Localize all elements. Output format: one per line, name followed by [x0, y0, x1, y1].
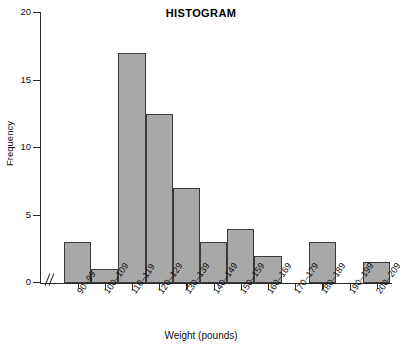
histogram-bar: [146, 114, 173, 283]
y-tick-label-10: 10: [0, 141, 31, 152]
x-axis-title: Weight (pounds): [0, 330, 402, 341]
y-tick-label-5: 5: [0, 209, 31, 220]
y-tick-5: [33, 215, 41, 216]
y-tick-label-20: 20: [0, 6, 31, 17]
y-tick-20: [33, 12, 41, 13]
y-tick-label-15: 15: [0, 74, 31, 85]
histogram-bar: [118, 53, 145, 283]
axis-break-icon: [45, 273, 57, 286]
y-tick-0: [33, 282, 41, 283]
chart-title: HISTOGRAM: [0, 7, 402, 19]
y-tick-label-0: 0: [0, 276, 31, 287]
y-tick-10: [33, 147, 41, 148]
histogram-chart: HISTOGRAM Frequency 05101520 90–99100–10…: [0, 0, 402, 349]
y-tick-15: [33, 80, 41, 81]
